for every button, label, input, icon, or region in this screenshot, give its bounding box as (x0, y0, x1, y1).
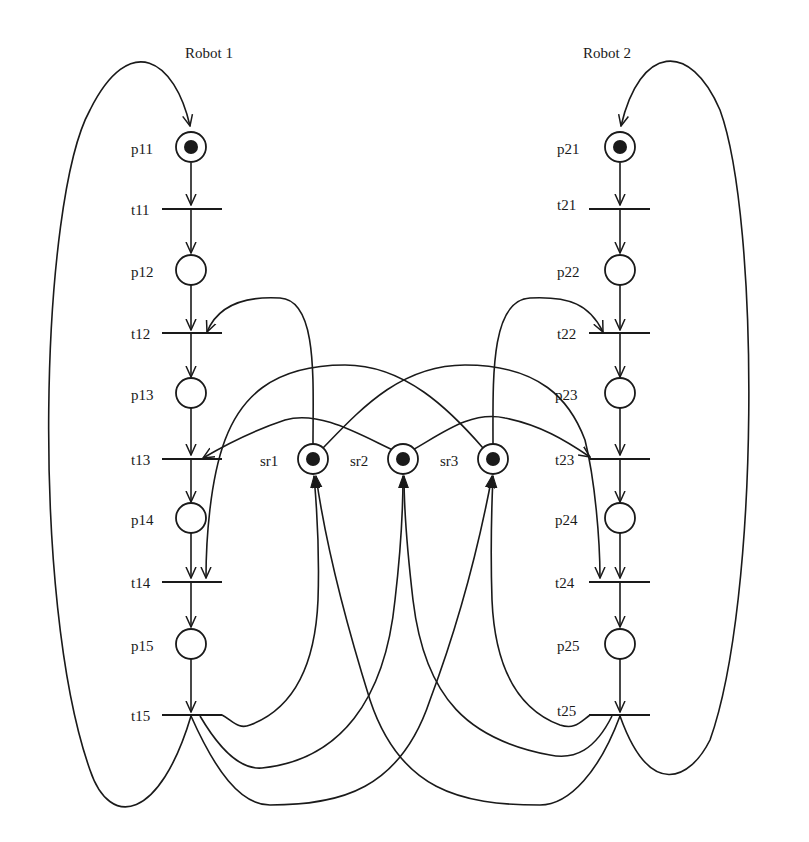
label-t21: t21 (557, 197, 576, 213)
robot1-title: Robot 1 (185, 45, 233, 61)
label-p14: p14 (131, 512, 154, 528)
arc-t15-sr2 (200, 476, 403, 768)
label-t15: t15 (131, 708, 150, 724)
arc-t25-sr3 (491, 476, 600, 727)
resource-request-arcs (203, 298, 603, 578)
place-p23[interactable] (605, 378, 635, 408)
token-sr2 (396, 452, 410, 466)
token-p11 (184, 140, 198, 154)
label-t11: t11 (131, 202, 150, 218)
robot1-column: p11 t11 p12 t12 p13 t13 p14 t14 p15 t15 (49, 62, 222, 807)
token-sr1 (306, 452, 320, 466)
arc-sr1-t24 (323, 365, 600, 578)
label-p24: p24 (555, 512, 578, 528)
label-p13: p13 (131, 387, 154, 403)
place-p15[interactable] (176, 629, 206, 659)
token-p21 (613, 140, 627, 154)
label-t24: t24 (555, 575, 575, 591)
arc-t15-sr3 (191, 476, 492, 805)
label-sr2: sr2 (350, 453, 368, 469)
token-sr3 (486, 452, 500, 466)
place-p12[interactable] (176, 255, 206, 285)
label-t12: t12 (131, 326, 150, 342)
label-t22: t22 (557, 326, 576, 342)
place-p25[interactable] (605, 629, 635, 659)
petri-net-diagram: Robot 1 Robot 2 p11 t11 p12 t12 p13 t1 (0, 0, 809, 842)
label-t25: t25 (557, 703, 576, 719)
label-t23: t23 (555, 452, 574, 468)
label-p25: p25 (557, 638, 580, 654)
arc-t15-sr1 (205, 476, 319, 726)
label-t13: t13 (131, 452, 150, 468)
label-p22: p22 (557, 264, 580, 280)
arc-t25-p21 (620, 61, 749, 774)
arc-t15-p11 (49, 62, 191, 807)
place-p22[interactable] (605, 255, 635, 285)
shared-resources: sr1 sr2 sr3 (260, 444, 508, 474)
robot2-column: p21 t21 p22 t22 p23 t23 p24 t24 p25 t25 (555, 61, 749, 774)
label-p12: p12 (131, 264, 154, 280)
label-sr3: sr3 (440, 453, 458, 469)
label-p21: p21 (557, 141, 580, 157)
label-p23: p23 (555, 387, 578, 403)
place-p24[interactable] (605, 503, 635, 533)
arc-sr3-t14 (206, 365, 483, 578)
arc-t25-sr2 (404, 476, 612, 756)
place-p13[interactable] (176, 378, 206, 408)
label-t14: t14 (131, 575, 151, 591)
label-sr1: sr1 (260, 453, 278, 469)
label-p15: p15 (131, 638, 154, 654)
place-p14[interactable] (176, 503, 206, 533)
label-p11: p11 (131, 141, 153, 157)
robot2-title: Robot 2 (583, 45, 631, 61)
